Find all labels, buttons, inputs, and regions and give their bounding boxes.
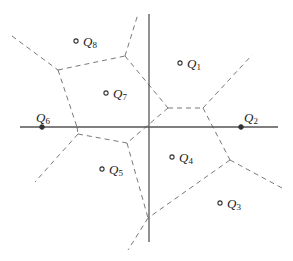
voronoi-edge — [77, 127, 78, 134]
voronoi-edge — [58, 56, 125, 70]
site-point-icon — [178, 61, 182, 65]
site-q5: Q5 — [100, 162, 123, 178]
sites: Q1Q2Q3Q4Q5Q6Q7Q8 — [36, 34, 258, 212]
voronoi-edge — [203, 108, 230, 160]
site-point-icon — [74, 39, 78, 43]
site-label: Q5 — [109, 162, 123, 178]
site-q1: Q1 — [178, 56, 201, 72]
voronoi-edge — [78, 134, 127, 143]
site-q7: Q7 — [104, 86, 127, 102]
voronoi-edge — [125, 14, 138, 56]
site-point-icon — [170, 155, 174, 159]
voronoi-edges — [12, 14, 282, 250]
site-label: Q3 — [227, 196, 241, 212]
voronoi-edge — [148, 160, 230, 218]
site-label: Q1 — [187, 56, 201, 72]
site-label: Q2 — [244, 110, 258, 126]
site-q4: Q4 — [170, 150, 193, 166]
site-point-icon — [239, 125, 244, 130]
voronoi-edge — [127, 143, 148, 218]
voronoi-edge — [35, 134, 78, 182]
site-point-icon — [104, 91, 108, 95]
voronoi-edge — [12, 36, 58, 70]
site-label: Q4 — [179, 150, 193, 166]
site-label: Q8 — [83, 34, 97, 50]
site-q8: Q8 — [74, 34, 97, 50]
voronoi-edge — [128, 218, 148, 250]
voronoi-edge — [203, 55, 252, 108]
site-label: Q7 — [113, 86, 127, 102]
site-point-icon — [40, 125, 45, 130]
site-q3: Q3 — [218, 196, 241, 212]
voronoi-edge — [58, 70, 77, 127]
site-point-icon — [100, 167, 104, 171]
site-label: Q6 — [36, 110, 50, 126]
voronoi-edge — [127, 108, 168, 143]
site-point-icon — [218, 201, 222, 205]
voronoi-diagram: Q1Q2Q3Q4Q5Q6Q7Q8 — [0, 0, 293, 261]
voronoi-edge — [125, 56, 168, 108]
voronoi-edge — [230, 160, 282, 188]
